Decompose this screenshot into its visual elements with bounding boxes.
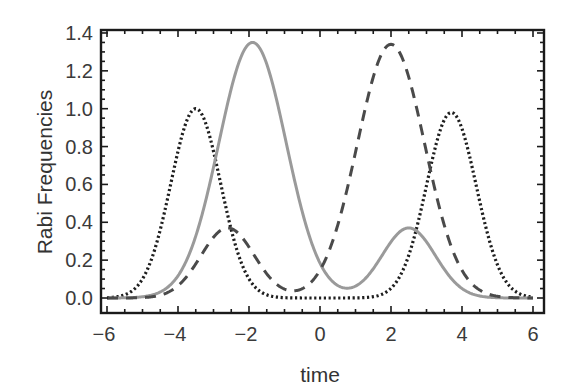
x-tick-label: 0 [314,323,325,345]
y-tick-label: 1.4 [65,22,93,44]
y-tick-label: 0.2 [65,249,93,271]
y-axis-title: Rabi Frequencies [33,90,56,255]
y-tick-label: 0.8 [65,136,93,158]
curve-dotted [107,109,533,298]
y-tick-label: 1.2 [65,60,93,82]
x-tick-label: 2 [385,323,396,345]
y-tick-label: 0.6 [65,173,93,195]
y-tick-label: 0.0 [65,287,93,309]
curve-solid [107,42,533,298]
x-axis-title: time [300,363,340,386]
y-tick-label: 1.0 [65,98,93,120]
x-tick-label: −2 [235,323,258,345]
x-tick-label: −6 [93,323,116,345]
x-tick-label: 4 [456,323,467,345]
y-tick-label: 0.4 [65,211,93,233]
y-axis-ticks: 0.00.20.40.60.81.01.21.4 [65,22,544,309]
rabi-frequency-chart: −6−4−20246 0.00.20.40.60.81.01.21.4 time… [0,0,573,392]
x-tick-label: −4 [164,323,187,345]
x-tick-label: 6 [527,323,538,345]
curves [107,42,533,298]
